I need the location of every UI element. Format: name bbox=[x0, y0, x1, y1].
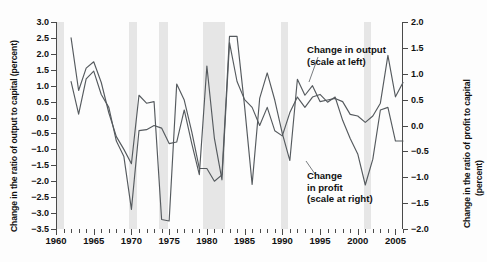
x-axis-tick-label: 1960 bbox=[45, 235, 66, 246]
y-axis-right-tick bbox=[403, 22, 408, 23]
x-axis-minor-tick bbox=[297, 229, 298, 233]
x-axis-tick-label: 2005 bbox=[385, 235, 406, 246]
x-axis-minor-tick bbox=[101, 229, 102, 233]
x-axis-tick-label: 1975 bbox=[159, 235, 180, 246]
x-axis-minor-tick bbox=[252, 229, 253, 233]
x-axis-minor-tick bbox=[177, 229, 178, 233]
y-axis-right-title: Change in the ratio of profit to capital bbox=[462, 79, 472, 228]
x-axis-minor-tick bbox=[388, 229, 389, 233]
x-axis-minor-tick bbox=[260, 229, 261, 233]
x-axis-minor-tick bbox=[365, 229, 366, 233]
x-axis-minor-tick bbox=[124, 229, 125, 233]
x-axis-minor-tick bbox=[267, 229, 268, 233]
y-axis-right-tick bbox=[403, 74, 408, 75]
x-axis-minor-tick bbox=[79, 229, 80, 233]
y-axis-right-title-unit: (percent) bbox=[474, 160, 484, 196]
x-axis-minor-tick bbox=[328, 229, 329, 233]
chart-figure: Change in the ratio of output to capital… bbox=[0, 0, 487, 262]
y-axis-left-tick-label: −3.0 bbox=[31, 208, 49, 218]
annotation-output-line2: (scale at left) bbox=[307, 56, 386, 68]
x-axis-minor-tick bbox=[343, 229, 344, 233]
x-axis-minor-tick bbox=[230, 229, 231, 233]
y-axis-right-tick-label: 2.0 bbox=[411, 17, 424, 27]
y-axis-right-tick-label: −1.0 bbox=[411, 172, 429, 182]
x-axis-minor-tick bbox=[373, 229, 374, 233]
x-axis-tick-label: 1985 bbox=[234, 235, 255, 246]
y-axis-right-tick-label: 0.5 bbox=[411, 95, 424, 105]
y-axis-left-tick-label: −2.0 bbox=[31, 176, 49, 186]
x-axis-minor-tick bbox=[162, 229, 163, 233]
y-axis-left-tick-label: −0.5 bbox=[31, 128, 49, 138]
x-axis-tick-label: 1980 bbox=[196, 235, 217, 246]
annotation-output: Change in output (scale at left) bbox=[307, 44, 386, 67]
y-axis-right-tick-label: −1.5 bbox=[411, 198, 429, 208]
y-axis-left-tick-label: 1.5 bbox=[36, 65, 49, 75]
x-axis-minor-tick bbox=[403, 229, 404, 233]
x-axis-tick-label: 1965 bbox=[83, 235, 104, 246]
x-axis-minor-tick bbox=[214, 229, 215, 233]
y-axis-left-tick-label: −1.0 bbox=[31, 144, 49, 154]
x-axis-minor-tick bbox=[64, 229, 65, 233]
x-axis-tick-label: 1990 bbox=[272, 235, 293, 246]
x-axis-minor-tick bbox=[147, 229, 148, 233]
annotation-output-line1: Change in output bbox=[307, 44, 386, 56]
x-axis-minor-tick bbox=[109, 229, 110, 233]
y-axis-left-tick-label: −1.5 bbox=[31, 160, 49, 170]
y-axis-left-tick-label: 0.0 bbox=[36, 113, 49, 123]
x-axis-minor-tick bbox=[312, 229, 313, 233]
y-axis-left-tick-label: 1.0 bbox=[36, 81, 49, 91]
y-axis-left-tick-label: 2.5 bbox=[36, 33, 49, 43]
y-axis-right-tick-label: 1.5 bbox=[411, 43, 424, 53]
y-axis-right-tick bbox=[403, 126, 408, 127]
y-axis-left-title: Change in the ratio of output to capital… bbox=[9, 40, 19, 232]
x-axis-minor-tick bbox=[237, 229, 238, 233]
y-axis-right-tick bbox=[403, 48, 408, 49]
annotation-profit-line2: in profit bbox=[307, 182, 373, 194]
y-axis-right-tick bbox=[403, 177, 408, 178]
x-axis-tick-label: 2000 bbox=[347, 235, 368, 246]
x-axis-minor-tick bbox=[275, 229, 276, 233]
x-axis-minor-tick bbox=[335, 229, 336, 233]
annotation-profit-line3: (scale at right) bbox=[307, 193, 373, 205]
y-axis-left-tick-label: −3.5 bbox=[31, 224, 49, 234]
x-axis-tick-label: 1970 bbox=[121, 235, 142, 246]
y-axis-right-tick bbox=[403, 151, 408, 152]
x-axis-minor-tick bbox=[139, 229, 140, 233]
y-axis-right-tick-label: −2.0 bbox=[411, 224, 429, 234]
annotation-profit-line1: Change bbox=[307, 170, 373, 182]
x-axis-tick-label: 1995 bbox=[309, 235, 330, 246]
x-axis-minor-tick bbox=[199, 229, 200, 233]
y-axis-left-tick-label: 0.5 bbox=[36, 97, 49, 107]
y-axis-right-tick-label: 0.0 bbox=[411, 121, 424, 131]
y-axis-right-tick bbox=[403, 203, 408, 204]
y-axis-left-tick-label: −2.5 bbox=[31, 192, 49, 202]
y-axis-left-tick-label: 2.0 bbox=[36, 49, 49, 59]
x-axis-minor-tick bbox=[184, 229, 185, 233]
y-axis-right-tick-label: 1.0 bbox=[411, 69, 424, 79]
x-axis-minor-tick bbox=[116, 229, 117, 233]
x-axis-minor-tick bbox=[71, 229, 72, 233]
x-axis-minor-tick bbox=[86, 229, 87, 233]
x-axis-minor-tick bbox=[154, 229, 155, 233]
x-axis-minor-tick bbox=[222, 229, 223, 233]
x-axis-minor-tick bbox=[380, 229, 381, 233]
x-axis-minor-tick bbox=[192, 229, 193, 233]
x-axis-minor-tick bbox=[290, 229, 291, 233]
x-axis-minor-tick bbox=[350, 229, 351, 233]
y-axis-right-tick-label: −0.5 bbox=[411, 146, 429, 156]
annotation-profit: Change in profit (scale at right) bbox=[307, 170, 373, 205]
y-axis-right-tick bbox=[403, 100, 408, 101]
x-axis-minor-tick bbox=[305, 229, 306, 233]
y-axis-left-tick-label: 3.0 bbox=[36, 17, 49, 27]
